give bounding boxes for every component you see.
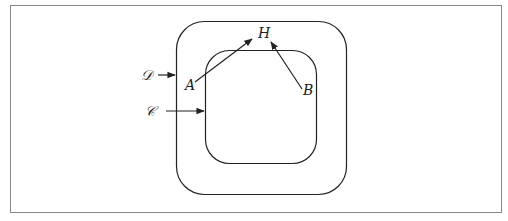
arrow-a-to-h [195, 39, 252, 82]
label-c: 𝒞 [145, 103, 159, 119]
label-a: A [183, 77, 195, 93]
region-d-outer-boundary [177, 22, 347, 195]
label-d: 𝒟 [141, 67, 155, 83]
figure-frame [11, 6, 502, 213]
arrow-b-to-h [271, 42, 302, 89]
label-h: H [257, 25, 271, 41]
diagram-canvas: 𝒟 𝒞 A B H [0, 0, 508, 221]
region-c-inner-boundary [206, 51, 317, 164]
label-b: B [302, 82, 313, 98]
